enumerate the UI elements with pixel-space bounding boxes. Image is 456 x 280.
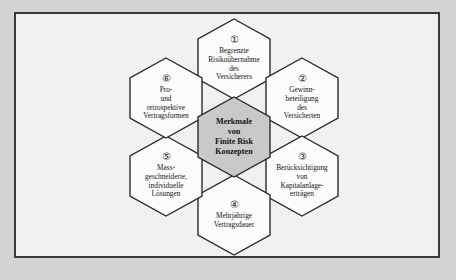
hexagon-node-1[interactable]: ① Begrenzte Risikoübernahme des Versiche… — [198, 19, 270, 99]
hexagon-content-2: ② Gewinn- beteiligung des Versicherten — [266, 58, 338, 138]
hexagon-node-5[interactable]: ⑤ Mass- geschneiderte, individuelle Lösu… — [130, 136, 202, 216]
hexagon-node-2[interactable]: ② Gewinn- beteiligung des Versicherten — [266, 58, 338, 138]
hexagon-content-center: Merkmale von Finite Risk Konzepten — [198, 97, 270, 177]
hexagon-label-6: Pro- und retrospektive Vertragsformen — [142, 86, 189, 120]
hexagon-number-5: ⑤ — [162, 153, 171, 163]
hexagon-number-1: ① — [230, 36, 239, 46]
hexagon-label-center: Merkmale von Finite Risk Konzepten — [214, 117, 254, 157]
diagram-page: ① Begrenzte Risikoübernahme des Versiche… — [0, 0, 456, 280]
hexagon-label-2: Gewinn- beteiligung des Versicherten — [283, 86, 321, 120]
hexagon-label-1: Begrenzte Risikoübernahme des Versichere… — [207, 47, 260, 81]
hexagon-node-center[interactable]: Merkmale von Finite Risk Konzepten — [198, 97, 270, 177]
hexagon-content-3: ③ Berücksichtigung von Kapitalanlage- er… — [266, 136, 338, 216]
hexagon-number-2: ② — [298, 75, 307, 85]
hexagon-node-3[interactable]: ③ Berücksichtigung von Kapitalanlage- er… — [266, 136, 338, 216]
hexagon-content-1: ① Begrenzte Risikoübernahme des Versiche… — [198, 19, 270, 99]
hexagon-label-4: Mehrjährige Vertragsdauer — [213, 212, 256, 229]
hexagon-number-3: ③ — [298, 153, 307, 163]
hexagon-content-6: ⑥ Pro- und retrospektive Vertragsformen — [130, 58, 202, 138]
hexagon-label-3: Berücksichtigung von Kapitalanlage- ertr… — [275, 164, 328, 198]
hexagon-number-6: ⑥ — [162, 75, 171, 85]
hexagon-node-4[interactable]: ④ Mehrjährige Vertragsdauer — [198, 175, 270, 255]
hexagon-number-4: ④ — [230, 201, 239, 211]
hexagon-content-5: ⑤ Mass- geschneiderte, individuelle Lösu… — [130, 136, 202, 216]
hexagon-cluster: ① Begrenzte Risikoübernahme des Versiche… — [0, 0, 456, 280]
hexagon-content-4: ④ Mehrjährige Vertragsdauer — [198, 175, 270, 255]
hexagon-label-5: Mass- geschneiderte, individuelle Lösung… — [144, 164, 188, 198]
hexagon-node-6[interactable]: ⑥ Pro- und retrospektive Vertragsformen — [130, 58, 202, 138]
